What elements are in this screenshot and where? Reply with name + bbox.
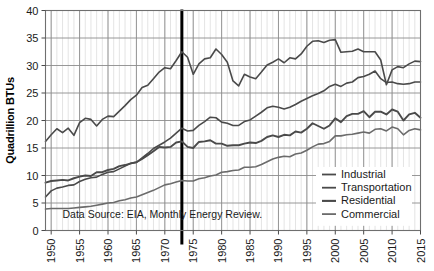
x-tick-label: 1955: [74, 239, 86, 263]
chart-canvas: Data Source: EIA, Monthly Energy Review.…: [0, 0, 434, 271]
x-tick-label: 1975: [187, 239, 199, 263]
x-tick-label: 2015: [415, 239, 427, 263]
y-tick-label: 35: [26, 32, 38, 44]
x-tick-label: 1980: [216, 239, 228, 263]
x-tick-label: 1990: [272, 239, 284, 263]
x-tick-label: 1950: [45, 239, 57, 263]
y-tick-label: 0: [32, 225, 38, 237]
legend-label-residential: Residential: [341, 194, 395, 206]
legend: IndustrialTransportationResidentialComme…: [316, 167, 412, 226]
legend-label-transportation: Transportation: [341, 181, 412, 193]
x-tick-label: 1960: [102, 239, 114, 263]
source-note: Data Source: EIA, Monthly Energy Review.: [63, 208, 263, 220]
legend-label-commercial: Commercial: [341, 208, 400, 220]
y-axis: 0510152025303540: [26, 5, 45, 237]
y-tick-label: 10: [26, 170, 38, 182]
y-tick-label: 20: [26, 115, 38, 127]
y-axis-title: Quadrillion BTUs: [4, 77, 16, 164]
x-axis: 1950195519601965197019751980198519901995…: [45, 231, 426, 263]
x-tick-label: 1965: [130, 239, 142, 263]
legend-label-industrial: Industrial: [341, 168, 386, 180]
y-tick-label: 5: [32, 197, 38, 209]
x-tick-label: 2005: [358, 239, 370, 263]
x-tick-label: 1995: [301, 239, 313, 263]
x-tick-label: 2000: [329, 239, 341, 263]
x-tick-label: 2010: [386, 239, 398, 263]
energy-consumption-chart: Data Source: EIA, Monthly Energy Review.…: [0, 0, 434, 271]
y-tick-label: 25: [26, 87, 38, 99]
x-tick-label: 1970: [159, 239, 171, 263]
x-tick-label: 1985: [244, 239, 256, 263]
y-tick-label: 40: [26, 5, 38, 17]
y-tick-label: 30: [26, 60, 38, 72]
y-tick-label: 15: [26, 142, 38, 154]
